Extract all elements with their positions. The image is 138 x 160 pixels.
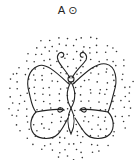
upper-left-wing bbox=[28, 65, 69, 112]
butterfly-body bbox=[67, 82, 75, 108]
upper-right-wing bbox=[73, 64, 116, 112]
lower-left-wing bbox=[31, 112, 68, 139]
butterfly-drawing bbox=[0, 0, 138, 160]
left-antenna bbox=[57, 52, 70, 78]
butterfly-outline bbox=[28, 52, 116, 138]
dot-field bbox=[8, 37, 134, 160]
lower-right-wing bbox=[75, 112, 113, 139]
